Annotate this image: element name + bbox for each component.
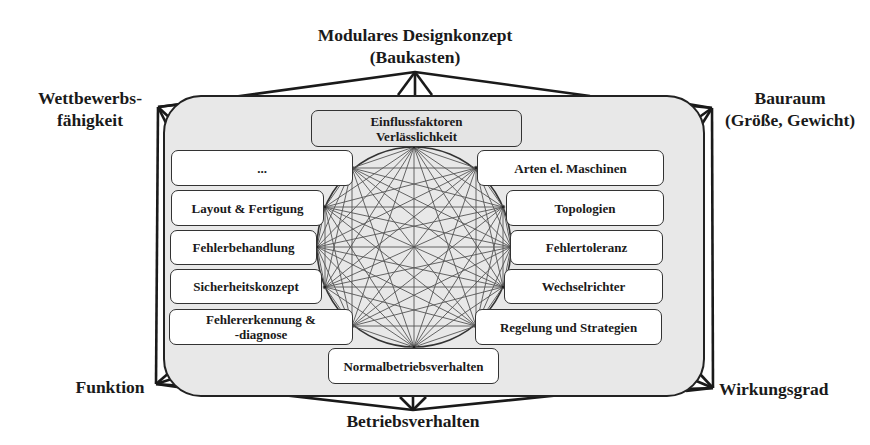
criterion-top-left-line2: fähigkeit — [20, 109, 160, 131]
criterion-betriebsverhalten-label: Betriebsverhalten — [346, 411, 479, 431]
left-box-ellipsis[interactable]: ... — [171, 150, 353, 186]
left-box-sicherheitskonzept[interactable]: Sicherheitskonzept — [170, 269, 322, 304]
left-box-fehlerbehandlung[interactable]: Fehlerbehandlung — [170, 230, 317, 265]
right-box-label: Arten el. Maschinen — [514, 161, 626, 176]
criterion-wirkungsgrad: Wirkungsgrad — [719, 378, 849, 400]
left-box-label: Layout & Fertigung — [192, 201, 304, 216]
center-bottom-box[interactable]: Normalbetriebsverhalten — [328, 348, 499, 384]
right-box-label: Regelung und Strategien — [500, 320, 637, 335]
criterion-betriebsverhalten: Betriebsverhalten — [318, 410, 508, 432]
criterion-bauraum: Bauraum (Größe, Gewicht) — [710, 87, 870, 131]
left-box-label: ... — [257, 161, 267, 176]
criterion-wettbewerbsfaehigkeit: Wettbewerbs- fähigkeit — [20, 87, 160, 131]
center-top-line1: Einflussfaktoren — [370, 114, 462, 129]
right-box-topologien[interactable]: Topologien — [506, 190, 664, 226]
right-box-label: Wechselrichter — [542, 279, 626, 294]
right-box-label: Topologien — [555, 201, 616, 216]
left-box-layout-fertigung[interactable]: Layout & Fertigung — [171, 190, 324, 226]
left-box-label: Sicherheitskonzept — [193, 279, 298, 294]
right-box-label: Fehlertoleranz — [546, 240, 628, 255]
left-box-label-2: -diagnose — [235, 327, 288, 342]
center-top-line2: Verlässlichkeit — [376, 129, 457, 144]
left-box-fehlererkennung[interactable]: Fehlererkennung & -diagnose — [169, 309, 353, 345]
left-box-label: Fehlererkennung & — [206, 312, 316, 327]
right-box-fehlertoleranz[interactable]: Fehlertoleranz — [510, 230, 663, 265]
criterion-funktion-label: Funktion — [75, 377, 144, 397]
criterion-top-left-line1: Wettbewerbs- — [20, 87, 160, 109]
criterion-top-line2: (Baukasten) — [290, 46, 540, 68]
center-top-box[interactable]: Einflussfaktoren Verlässlichkeit — [311, 110, 522, 147]
left-box-label: Fehlerbehandlung — [193, 240, 295, 255]
criterion-funktion: Funktion — [70, 376, 150, 398]
right-box-wechselrichter[interactable]: Wechselrichter — [504, 269, 663, 304]
criterion-wirkungsgrad-label: Wirkungsgrad — [719, 379, 829, 399]
right-box-arten-maschinen[interactable]: Arten el. Maschinen — [477, 150, 664, 186]
criterion-top-line1: Modulares Designkonzept — [290, 24, 540, 46]
criterion-modulares-designkonzept: Modulares Designkonzept (Baukasten) — [290, 24, 540, 68]
criterion-top-right-line2: (Größe, Gewicht) — [710, 109, 870, 131]
criterion-top-right-line1: Bauraum — [710, 87, 870, 109]
center-bottom-label: Normalbetriebsverhalten — [343, 359, 483, 374]
right-box-regelung-strategien[interactable]: Regelung und Strategien — [475, 309, 662, 345]
diagram-canvas: Einflussfaktoren Verlässlichkeit ... Lay… — [0, 0, 870, 445]
